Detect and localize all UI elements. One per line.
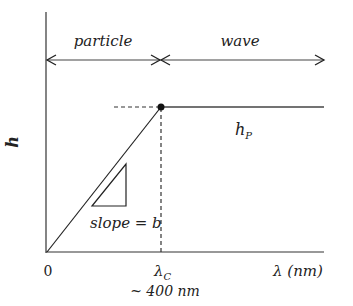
critical-wavelength-label: λC [153,262,172,282]
x-axis-label: λ (nm) [272,262,323,280]
particle-label: particle [74,32,133,50]
h-vs-lambda-diagram: particle wave h hP slope = b 0 λC ~ 400 … [0,0,353,306]
critical-point [158,104,165,111]
slope-triangle [92,164,126,206]
plateau-label: hP [235,120,252,141]
origin-label: 0 [44,263,53,279]
critical-value-label: ~ 400 nm [130,283,200,299]
y-axis-label: h [3,136,22,148]
wave-label: wave [220,32,259,50]
slope-label: slope = b [90,214,162,232]
